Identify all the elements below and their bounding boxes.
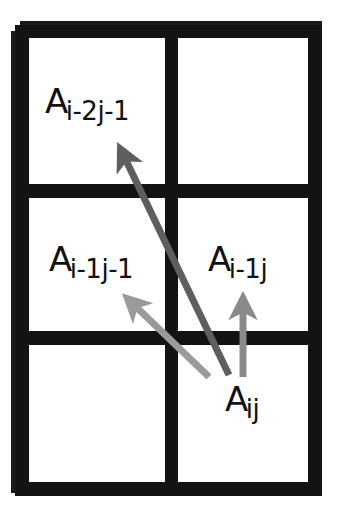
matrix-dependency-diagram: Ai-2j-1 Ai-1j-1 Ai-1j Aij	[0, 0, 339, 512]
dependency-arrows	[0, 0, 339, 512]
